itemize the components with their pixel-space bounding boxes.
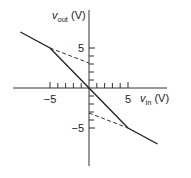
dashed-extension-lower [89,113,128,128]
x-tick-label-pos5: 5 [125,93,131,105]
x-tick-label-neg5: −5 [44,93,57,105]
x-axis-title: vin (V) [140,92,169,107]
transfer-characteristic-chart: −5 5 5 −5 vout (V) vin (V) [0,0,191,178]
y-axis-title: vout (V) [52,9,86,24]
y-tick-label-neg5: −5 [71,122,84,134]
y-tick-label-pos5: 5 [78,42,84,54]
